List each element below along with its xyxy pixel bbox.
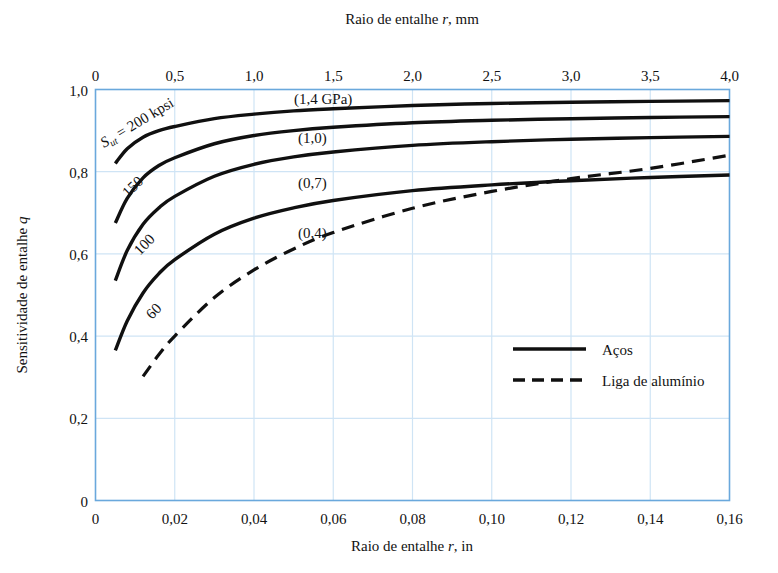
bottom-tick-label: 0 bbox=[92, 511, 100, 527]
top-tick-label: 1,5 bbox=[324, 68, 343, 84]
left-tick-label: 1,0 bbox=[69, 83, 88, 99]
curve-label-0-7-gpa: (0,7) bbox=[298, 175, 327, 192]
curve-label-1-0-gpa: (1,0) bbox=[298, 130, 327, 147]
chart-canvas: Raio de entalhe r, mm 00,51,01,52,02,53,… bbox=[0, 0, 778, 573]
bottom-tick-label: 0,02 bbox=[162, 511, 188, 527]
top-tick-label: 3,0 bbox=[562, 68, 581, 84]
bottom-tick-label: 0,10 bbox=[479, 511, 505, 527]
legend-label-aluminium: Liga de alumínio bbox=[602, 373, 704, 389]
top-axis-title: Raio de entalhe r, mm bbox=[345, 11, 479, 27]
notch-sensitivity-chart: Raio de entalhe r, mm 00,51,01,52,02,53,… bbox=[0, 0, 778, 573]
top-tick-label: 3,5 bbox=[641, 68, 660, 84]
bottom-tick-label: 0,08 bbox=[399, 511, 425, 527]
top-tick-label: 1,0 bbox=[245, 68, 264, 84]
legend-label-steel: Aços bbox=[602, 342, 633, 358]
top-tick-label: 0 bbox=[92, 68, 100, 84]
top-tick-label: 0,5 bbox=[165, 68, 184, 84]
top-tick-label: 2,5 bbox=[482, 68, 501, 84]
bottom-tick-label: 0,12 bbox=[558, 511, 584, 527]
bottom-tick-label: 0,14 bbox=[637, 511, 664, 527]
left-tick-label: 0,6 bbox=[69, 247, 88, 263]
bottom-tick-label: 0,06 bbox=[320, 511, 347, 527]
bottom-tick-label: 0,04 bbox=[241, 511, 268, 527]
left-tick-label: 0,4 bbox=[69, 329, 88, 345]
chart-background bbox=[0, 0, 778, 573]
bottom-axis-title: Raio de entalhe r, in bbox=[351, 538, 474, 554]
left-tick-label: 0 bbox=[81, 494, 89, 510]
curve-label-0-4-gpa: (0,4) bbox=[298, 225, 327, 242]
left-tick-label: 0,2 bbox=[69, 411, 88, 427]
bottom-tick-label: 0,16 bbox=[716, 511, 743, 527]
left-tick-label: 0,8 bbox=[69, 165, 88, 181]
top-tick-label: 4,0 bbox=[720, 68, 739, 84]
top-tick-label: 2,0 bbox=[403, 68, 422, 84]
left-axis-title: Sensitividade de entalhe q bbox=[14, 216, 30, 374]
curve-label-1-4-gpa: (1,4 GPa) bbox=[294, 91, 352, 108]
